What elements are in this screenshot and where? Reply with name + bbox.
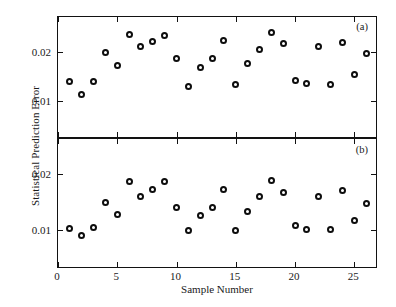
x-axis-tick (354, 17, 355, 22)
y-axis-tick-label: 0.01 (5, 96, 51, 107)
data-point (126, 31, 133, 38)
data-point (256, 46, 263, 53)
data-point (137, 193, 144, 200)
y-axis-tick (58, 230, 63, 231)
data-point (114, 62, 121, 69)
data-point (303, 80, 310, 87)
data-point (90, 224, 97, 231)
data-point (197, 64, 204, 71)
y-axis-tick-label: 0.02 (5, 47, 51, 58)
x-axis-tick (295, 17, 296, 22)
data-point (303, 226, 310, 233)
x-axis-tick (236, 262, 237, 267)
data-point (292, 77, 299, 84)
x-axis-tick (58, 132, 59, 137)
data-point (185, 83, 192, 90)
data-point (137, 43, 144, 50)
x-axis-tick (295, 132, 296, 137)
data-point (149, 186, 156, 193)
y-axis-tick (58, 174, 63, 175)
x-axis-tick (354, 262, 355, 267)
x-axis-tick-label: 10 (161, 271, 191, 282)
x-axis-tick (117, 139, 118, 144)
data-point (363, 200, 370, 207)
x-axis-tick-label: 25 (338, 271, 368, 282)
data-point (126, 178, 133, 185)
data-point (149, 38, 156, 45)
data-point (209, 204, 216, 211)
data-point (363, 50, 370, 57)
data-point (102, 199, 109, 206)
data-point (209, 55, 216, 62)
panel-a-plot-area (58, 17, 376, 137)
panel-b: (b) (57, 138, 377, 268)
y-axis-tick (371, 52, 376, 53)
data-point (268, 29, 275, 36)
x-axis-tick (295, 262, 296, 267)
y-axis-tick (371, 101, 376, 102)
data-point (351, 217, 358, 224)
x-axis-tick (58, 139, 59, 144)
data-point (280, 40, 287, 47)
data-point (280, 189, 287, 196)
data-point (197, 212, 204, 219)
data-point (161, 32, 168, 39)
data-point (351, 71, 358, 78)
x-axis-tick (354, 132, 355, 137)
data-point (161, 178, 168, 185)
figure-container: Statistical Prediction Error (a) (b) 0.0… (0, 0, 396, 307)
data-point (327, 81, 334, 88)
x-axis-tick (236, 132, 237, 137)
x-axis-tick (177, 17, 178, 22)
y-axis-tick-label: 0.01 (5, 225, 51, 236)
x-axis-title: Sample Number (57, 283, 377, 295)
y-axis-tick (58, 101, 63, 102)
y-axis-tick (371, 230, 376, 231)
data-point (244, 60, 251, 67)
data-point (185, 227, 192, 234)
data-point (327, 226, 334, 233)
data-point (256, 193, 263, 200)
data-point (66, 78, 73, 85)
x-axis-tick-label: 20 (279, 271, 309, 282)
x-axis-tick (117, 262, 118, 267)
data-point (114, 211, 121, 218)
data-point (90, 78, 97, 85)
data-point (244, 208, 251, 215)
x-axis-tick-label: 0 (42, 271, 72, 282)
x-axis-tick (177, 132, 178, 137)
data-point (339, 39, 346, 46)
x-axis-tick (236, 17, 237, 22)
y-axis-title: Statistical Prediction Error (29, 46, 41, 246)
panel-a: (a) (57, 16, 377, 138)
panel-b-label: (b) (356, 144, 368, 155)
data-point (232, 81, 239, 88)
x-axis-tick (117, 17, 118, 22)
data-point (78, 232, 85, 239)
x-axis-tick (177, 262, 178, 267)
data-point (220, 37, 227, 44)
x-axis-tick (58, 17, 59, 22)
x-axis-tick (236, 139, 237, 144)
data-point (173, 55, 180, 62)
y-axis-tick (371, 174, 376, 175)
data-point (78, 91, 85, 98)
x-axis-tick (177, 139, 178, 144)
data-point (315, 193, 322, 200)
data-point (102, 49, 109, 56)
data-point (66, 225, 73, 232)
panel-a-label: (a) (356, 21, 368, 32)
data-point (339, 187, 346, 194)
data-point (315, 43, 322, 50)
x-axis-tick (295, 139, 296, 144)
y-axis-tick-label: 0.02 (5, 169, 51, 180)
data-point (173, 204, 180, 211)
x-axis-tick (58, 262, 59, 267)
x-axis-tick-label: 15 (220, 271, 250, 282)
x-axis-tick-label: 5 (101, 271, 131, 282)
data-point (232, 227, 239, 234)
y-axis-tick (58, 52, 63, 53)
panel-b-plot-area (58, 139, 376, 267)
x-axis-tick (117, 132, 118, 137)
data-point (292, 222, 299, 229)
